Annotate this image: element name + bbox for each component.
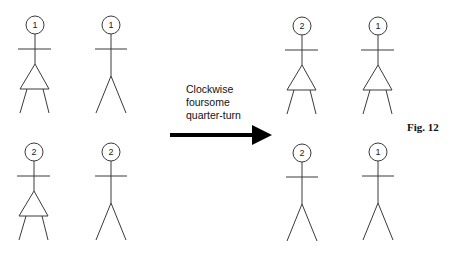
after-bottom-left-dancer: 2 <box>286 144 318 241</box>
before-top-right-dancer: 1 <box>95 16 127 113</box>
dancer-number: 1 <box>32 20 37 30</box>
after-bottom-right-dancer: 1 <box>362 143 394 240</box>
caption: Clockwise foursome quarter-turn <box>186 83 241 121</box>
caption-line-3: quarter-turn <box>186 109 241 121</box>
before-bottom-left-dancer: 2 <box>17 143 50 240</box>
dancer-number: 1 <box>375 21 380 31</box>
after-top-left-dancer: 2 <box>285 17 318 114</box>
before-top-left-dancer: 1 <box>18 16 51 113</box>
dancer-number: 2 <box>31 147 36 157</box>
square-dance-diagram: 1 1 2 2 Clockwise foursome quarter-turn … <box>0 0 458 259</box>
dancer-number: 1 <box>375 147 380 157</box>
caption-line-1: Clockwise <box>186 83 233 95</box>
after-top-right-dancer: 1 <box>361 17 394 114</box>
dancer-number: 2 <box>299 21 304 31</box>
dancer-number: 2 <box>108 147 113 157</box>
dancer-number: 1 <box>108 20 113 30</box>
dancer-number: 2 <box>299 148 304 158</box>
figure-label: Fig. 12 <box>407 121 439 133</box>
right-arrow-icon <box>170 125 272 145</box>
caption-line-2: foursome <box>186 96 230 108</box>
before-bottom-right-dancer: 2 <box>95 143 127 240</box>
